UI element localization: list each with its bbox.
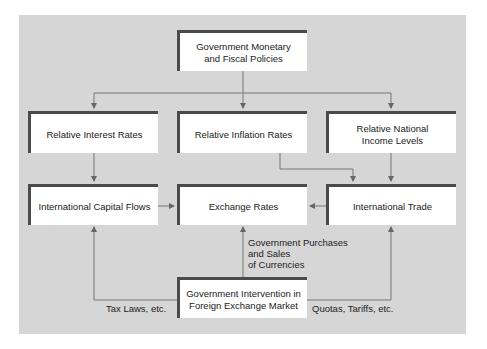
node-international-trade-label: International Trade xyxy=(353,199,432,213)
node-exchange-rates: Exchange Rates xyxy=(177,184,307,225)
node-government-intervention: Government Intervention in Foreign Excha… xyxy=(177,277,307,318)
node-income-levels-label: Relative National Income Levels xyxy=(357,121,429,147)
edge-label-purchases: Government Purchases and Sales of Curren… xyxy=(248,237,348,270)
node-policies-label: Government Monetary and Fiscal Policies xyxy=(196,39,291,65)
node-interest-rates-label: Relative Interest Rates xyxy=(46,127,142,141)
node-income-levels: Relative National Income Levels xyxy=(326,111,456,153)
node-inflation-rates: Relative Inflation Rates xyxy=(177,111,307,153)
edge-label-tax-laws: Tax Laws, etc. xyxy=(106,303,166,314)
node-capital-flows: International Capital Flows xyxy=(28,184,158,225)
edge-label-quotas-tariffs: Quotas, Tariffs, etc. xyxy=(312,303,394,314)
node-government-intervention-label: Government Intervention in Foreign Excha… xyxy=(186,286,301,312)
node-inflation-rates-label: Relative Inflation Rates xyxy=(195,127,293,141)
node-interest-rates: Relative Interest Rates xyxy=(28,111,158,153)
node-exchange-rates-label: Exchange Rates xyxy=(209,199,279,213)
node-capital-flows-label: International Capital Flows xyxy=(39,199,151,213)
node-policies: Government Monetary and Fiscal Policies xyxy=(177,30,307,71)
node-international-trade: International Trade xyxy=(326,184,456,225)
